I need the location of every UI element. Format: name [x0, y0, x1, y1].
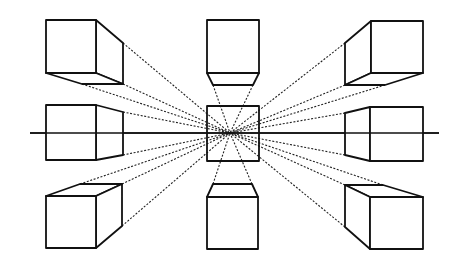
projection-line [230, 133, 345, 155]
projection-line [230, 85, 345, 133]
cube-bottom-left [46, 184, 122, 248]
projection-line [230, 113, 345, 133]
cube-top-center [207, 20, 259, 85]
cube-front-face [370, 197, 423, 249]
cube-front-face [207, 197, 258, 249]
cube-bottom-center [207, 184, 258, 249]
projection-line [230, 133, 252, 184]
projection-line [123, 112, 230, 133]
cube-top-right [345, 21, 423, 85]
cube-top-left [46, 20, 123, 84]
projection-line [230, 133, 345, 185]
cube-side-face [345, 107, 370, 161]
diagram-canvas [0, 0, 462, 266]
cube-front-face [46, 196, 96, 248]
cubes [46, 20, 423, 249]
cube-front-face [207, 20, 259, 73]
cube-front-face [371, 21, 423, 73]
cube-side-face [207, 184, 258, 197]
projection-line [122, 133, 230, 184]
cube-side-face [207, 73, 259, 85]
projection-line [230, 85, 253, 133]
cube-front-face [370, 107, 423, 161]
projection-line [123, 84, 230, 133]
cube-side-face [96, 184, 122, 248]
perspective-diagram [0, 0, 462, 266]
cube-bottom-right [345, 185, 423, 249]
cube-front-face [46, 20, 96, 73]
cube-middle-right [345, 107, 423, 161]
cube-side-face [345, 185, 370, 249]
